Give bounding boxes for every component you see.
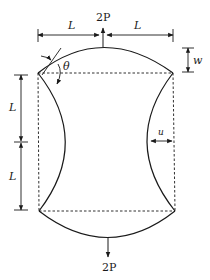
top-load-arrow: 2P	[96, 11, 111, 47]
bottom-arc	[39, 211, 175, 238]
undeformed-outline	[38, 73, 175, 211]
theta-indicator	[41, 48, 61, 84]
u-label: u	[158, 127, 164, 137]
left-span-dimension	[14, 75, 28, 210]
left-bulge	[38, 73, 65, 211]
top-left-span-label: L	[67, 19, 75, 32]
bottom-load-arrow: 2P	[102, 238, 117, 274]
deformed-shape	[38, 48, 175, 238]
w-label: w	[193, 54, 203, 67]
deformed-frame-diagram: 2P 2P L L w L L u θ	[0, 0, 210, 280]
bottom-load-label: 2P	[102, 261, 117, 274]
tangent-line	[42, 48, 61, 75]
top-span-dimension	[38, 29, 173, 42]
top-load-label: 2P	[96, 11, 111, 24]
theta-label: θ	[63, 60, 70, 73]
right-bulge	[147, 73, 175, 211]
left-lower-span-label: L	[8, 170, 16, 183]
top-right-span-label: L	[133, 19, 141, 32]
left-upper-span-label: L	[8, 101, 16, 114]
